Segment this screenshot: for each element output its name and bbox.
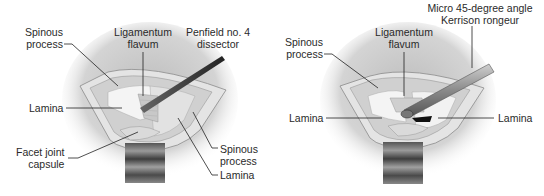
label-line: capsule (16, 158, 64, 170)
label-line: process (285, 48, 323, 60)
retractor-blade (383, 142, 423, 184)
label-line: Spinous (285, 36, 323, 48)
label-spinous-process: Spinous process (285, 36, 323, 60)
retractor-blade (125, 143, 165, 183)
label-lamina-right: Lamina (498, 112, 532, 124)
label-line: Facet joint (16, 146, 64, 158)
label-line: process (220, 155, 258, 167)
label-line: Ligamentum (113, 26, 173, 38)
label-line: flavum (113, 38, 173, 50)
label-lamina-left: Lamina (289, 112, 323, 124)
label-line: Ligamentum (374, 26, 434, 38)
label-line: process (25, 38, 63, 50)
label-spinous-process-right: Spinous process (220, 143, 258, 167)
label-spinous-process-top: Spinous process (25, 26, 63, 50)
label-line: flavum (374, 38, 434, 50)
label-line: dissector (178, 38, 258, 50)
label-lamina-right: Lamina (220, 169, 254, 181)
label-line: Penfield no. 4 (178, 26, 258, 38)
left-panel-penfield-dissection: Spinous process Ligamentum flavum Penfie… (0, 0, 272, 196)
label-kerrison-rongeur: Micro 45-degree angle Kerrison rongeur (420, 2, 540, 26)
label-line: Micro 45-degree angle (420, 2, 540, 14)
label-line: Spinous (25, 26, 63, 38)
label-facet-joint-capsule: Facet joint capsule (16, 146, 64, 170)
label-penfield-dissector: Penfield no. 4 dissector (178, 26, 258, 50)
right-panel-kerrison-rongeur: Micro 45-degree angle Kerrison rongeur S… (272, 0, 544, 196)
label-lamina-left: Lamina (29, 102, 63, 114)
label-ligamentum-flavum: Ligamentum flavum (374, 26, 434, 50)
label-line: Spinous (220, 143, 258, 155)
label-ligamentum-flavum: Ligamentum flavum (113, 26, 173, 50)
label-line: Kerrison rongeur (420, 14, 540, 26)
